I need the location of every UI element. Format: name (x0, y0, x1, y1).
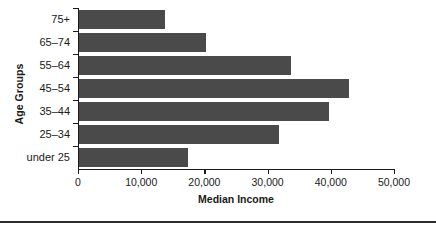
page-divider-rule (0, 221, 436, 223)
x-axis-tick-label: 50,000 (378, 176, 410, 188)
x-axis-tick-mark (268, 169, 269, 174)
y-axis-tick-mark (73, 31, 78, 32)
x-axis-tick-mark (331, 169, 332, 174)
bar (79, 33, 206, 52)
y-axis-tick-label: 35–44 (39, 100, 70, 123)
bar (79, 125, 279, 144)
y-axis-tick-label: 25–34 (39, 123, 70, 146)
y-axis-tick-label: 55–64 (39, 54, 70, 77)
y-axis-tick-mark (73, 54, 78, 55)
x-axis-tick-label: 10,000 (125, 176, 157, 188)
y-axis-tick-mark (73, 100, 78, 101)
y-axis-tick-mark (73, 146, 78, 147)
x-axis-tick-label: 0 (75, 176, 81, 188)
x-axis-tick-label: 20,000 (188, 176, 220, 188)
x-axis-title: Median Income (78, 193, 394, 205)
y-axis-tick-label: 45–54 (39, 77, 70, 100)
x-axis-tick-mark (141, 169, 142, 174)
bar (79, 79, 349, 98)
y-axis-tick-label: 75+ (51, 8, 70, 31)
x-axis-line (78, 169, 394, 170)
y-axis-tick-label-group: 75+65–7455–6445–5435–4425–34under 25 (8, 8, 74, 169)
y-axis-tick-mark (73, 123, 78, 124)
x-axis-tick-mark (204, 169, 205, 174)
bar (79, 56, 291, 75)
x-axis-tick-mark (394, 169, 395, 174)
x-axis-tick-label-group: 010,00020,00030,00040,00050,000 (78, 176, 394, 192)
bar (79, 10, 165, 29)
x-axis-tick-mark (78, 169, 79, 174)
y-axis-tick-label: 65–74 (39, 31, 70, 54)
x-axis-tick-label: 30,000 (252, 176, 284, 188)
y-axis-tick-label: under 25 (27, 146, 70, 169)
bar (79, 102, 329, 121)
y-axis-tick-mark (73, 8, 78, 9)
plot-area (78, 8, 394, 169)
bar (79, 148, 188, 167)
x-axis-tick-label: 40,000 (315, 176, 347, 188)
y-axis-tick-mark (73, 77, 78, 78)
bar-chart-figure: Age Groups 75+65–7455–6445–5435–4425–34u… (0, 0, 436, 232)
